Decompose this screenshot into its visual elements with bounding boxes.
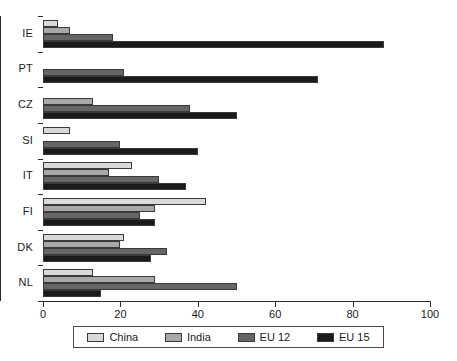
legend-item-china[interactable]: China xyxy=(87,331,138,343)
x-axis-label-80: 80 xyxy=(333,308,373,320)
legend-swatch-eu15 xyxy=(317,333,334,342)
bar-ie-eu15 xyxy=(43,41,384,48)
bar-si-eu12 xyxy=(43,141,120,148)
y-axis-label-pt: PT xyxy=(0,62,33,74)
bar-fi-india xyxy=(43,205,155,212)
bar-cz-india xyxy=(43,98,93,105)
y-axis-label-si: SI xyxy=(0,134,33,146)
x-axis-label-40: 40 xyxy=(178,308,218,320)
y-axis-label-fi: FI xyxy=(0,205,33,217)
bar-nl-eu15 xyxy=(43,290,101,297)
bar-ie-india xyxy=(43,27,70,34)
x-axis-tick xyxy=(430,302,431,307)
x-axis-tick xyxy=(275,302,276,307)
bar-it-eu12 xyxy=(43,176,159,183)
bar-pt-eu12 xyxy=(43,69,124,76)
bar-ie-china xyxy=(43,20,58,27)
bar-pt-eu15 xyxy=(43,76,318,83)
bar-group xyxy=(43,265,430,301)
bar-fi-eu12 xyxy=(43,212,140,219)
bar-chart: IEPTCZSIITFIDKNL 020406080100 ChinaIndia… xyxy=(0,0,457,361)
bar-group xyxy=(43,123,430,159)
x-axis-tick xyxy=(353,302,354,307)
bar-group xyxy=(43,159,430,195)
bar-it-china xyxy=(43,162,132,169)
legend-item-eu15[interactable]: EU 15 xyxy=(317,331,370,343)
legend-label-india: India xyxy=(187,331,211,343)
legend-swatch-china xyxy=(87,333,104,342)
bar-fi-china xyxy=(43,198,206,205)
legend-swatch-eu12 xyxy=(238,333,255,342)
bar-dk-eu12 xyxy=(43,248,167,255)
y-axis-label-dk: DK xyxy=(0,241,33,253)
y-axis-label-nl: NL xyxy=(0,276,33,288)
plot-area xyxy=(43,16,430,301)
legend-label-china: China xyxy=(109,331,138,343)
bar-dk-india xyxy=(43,241,120,248)
bar-fi-eu15 xyxy=(43,219,155,226)
bar-dk-eu15 xyxy=(43,255,151,262)
y-axis-label-cz: CZ xyxy=(0,98,33,110)
x-axis-tick xyxy=(43,302,44,307)
x-axis-label-60: 60 xyxy=(255,308,295,320)
x-axis-line xyxy=(43,301,431,302)
bar-cz-eu15 xyxy=(43,112,237,119)
chart-legend: ChinaIndiaEU 12EU 15 xyxy=(73,326,384,348)
bar-si-china xyxy=(43,127,70,134)
y-axis-label-it: IT xyxy=(0,169,33,181)
bar-group xyxy=(43,87,430,123)
x-axis-tick xyxy=(198,302,199,307)
bar-nl-india xyxy=(43,276,155,283)
bar-nl-eu12 xyxy=(43,283,237,290)
x-axis-label-0: 0 xyxy=(23,308,63,320)
bar-group xyxy=(43,194,430,230)
bar-nl-china xyxy=(43,269,93,276)
bar-dk-china xyxy=(43,234,124,241)
x-axis-tick xyxy=(120,302,121,307)
bar-group xyxy=(43,230,430,266)
bar-group xyxy=(43,16,430,52)
legend-item-eu12[interactable]: EU 12 xyxy=(238,331,291,343)
y-axis-label-ie: IE xyxy=(0,27,33,39)
x-axis-label-20: 20 xyxy=(100,308,140,320)
y-axis-line xyxy=(0,16,1,301)
legend-swatch-india xyxy=(165,333,182,342)
bar-group xyxy=(43,52,430,88)
bar-ie-eu12 xyxy=(43,34,113,41)
bar-it-eu15 xyxy=(43,183,186,190)
legend-label-eu12: EU 12 xyxy=(260,331,291,343)
legend-item-india[interactable]: India xyxy=(165,331,211,343)
legend-label-eu15: EU 15 xyxy=(339,331,370,343)
x-axis-label-100: 100 xyxy=(410,308,450,320)
bar-si-eu15 xyxy=(43,148,198,155)
bar-cz-eu12 xyxy=(43,105,190,112)
bar-it-india xyxy=(43,169,109,176)
